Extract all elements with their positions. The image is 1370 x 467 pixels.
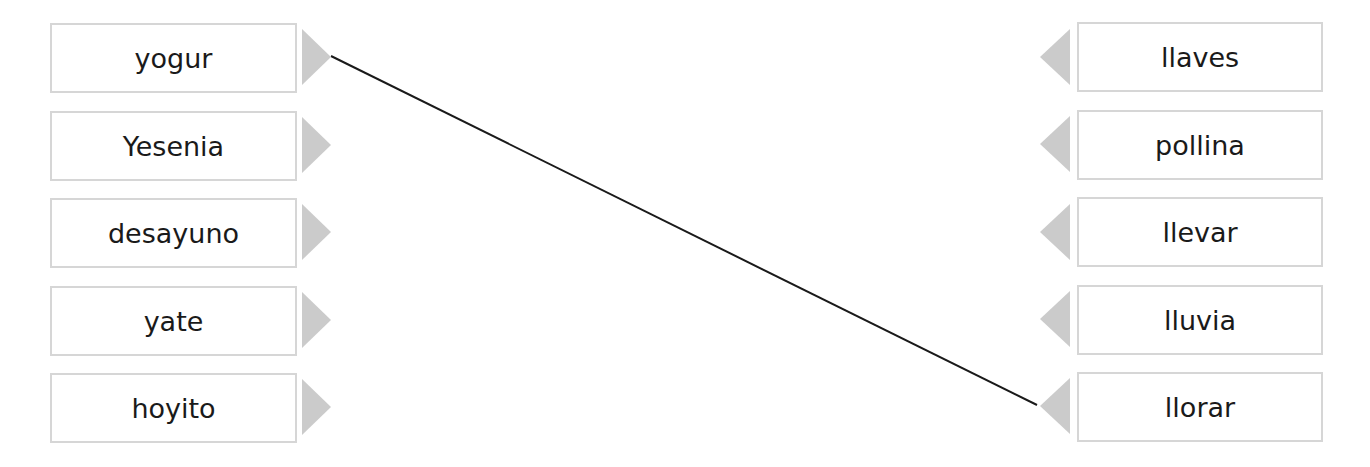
right-arrow-connector-icon[interactable] [302, 117, 331, 173]
right-item-lluvia[interactable]: lluvia [1077, 285, 1323, 355]
left-item-yate[interactable]: yate [50, 286, 297, 356]
right-item-llevar[interactable]: llevar [1077, 197, 1323, 267]
left-item-label: hoyito [131, 393, 215, 424]
left-item-label: Yesenia [123, 131, 224, 162]
right-item-label: llaves [1161, 42, 1239, 73]
left-item-label: desayuno [108, 218, 239, 249]
left-item-desayuno[interactable]: desayuno [50, 198, 297, 268]
left-item-yogur[interactable]: yogur [50, 23, 297, 93]
left-arrow-connector-icon[interactable] [1040, 29, 1070, 85]
connection-line-yogur-llorar [331, 56, 1037, 405]
right-item-label: lluvia [1164, 305, 1236, 336]
right-item-pollina[interactable]: pollina [1077, 110, 1323, 180]
left-arrow-connector-icon[interactable] [1040, 291, 1070, 347]
left-arrow-connector-icon[interactable] [1040, 378, 1070, 434]
right-arrow-connector-icon[interactable] [302, 379, 331, 435]
left-arrow-connector-icon[interactable] [1040, 116, 1070, 172]
right-item-label: llorar [1165, 392, 1235, 423]
left-item-yesenia[interactable]: Yesenia [50, 111, 297, 181]
right-item-llaves[interactable]: llaves [1077, 22, 1323, 92]
left-arrow-connector-icon[interactable] [1040, 204, 1070, 260]
right-arrow-connector-icon[interactable] [302, 204, 331, 260]
left-item-label: yate [144, 306, 204, 337]
right-arrow-connector-icon[interactable] [302, 292, 331, 348]
right-item-llorar[interactable]: llorar [1077, 372, 1323, 442]
left-item-label: yogur [135, 43, 213, 74]
right-arrow-connector-icon[interactable] [302, 29, 331, 85]
right-item-label: llevar [1162, 217, 1237, 248]
left-item-hoyito[interactable]: hoyito [50, 373, 297, 443]
right-item-label: pollina [1155, 130, 1245, 161]
